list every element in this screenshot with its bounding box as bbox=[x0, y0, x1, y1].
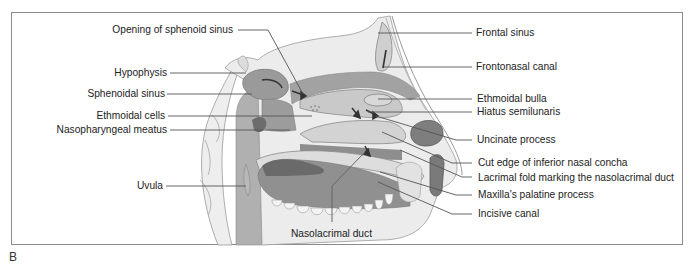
label-opening-sphenoid-sinus: Opening of sphenoid sinus bbox=[40, 24, 233, 36]
label-hypophysis: Hypophysis bbox=[40, 67, 167, 79]
label-frontal-sinus: Frontal sinus bbox=[476, 27, 534, 39]
label-sphenoidal-sinus: Sphenoidal sinus bbox=[40, 88, 165, 100]
label-frontonasal-canal: Frontonasal canal bbox=[476, 61, 557, 73]
maxilla-anterior bbox=[396, 162, 422, 202]
cervical-vertebrae bbox=[202, 70, 238, 245]
label-maxilla-palatine-process: Maxilla's palatine process bbox=[478, 189, 594, 201]
label-nasolacrimal-duct: Nasolacrimal duct bbox=[291, 228, 372, 240]
label-lacrimal-fold: Lacrimal fold marking the nasolacrimal d… bbox=[478, 172, 674, 184]
label-uvula: Uvula bbox=[40, 180, 163, 192]
label-nasopharyngeal-meatus: Nasopharyngeal meatus bbox=[20, 124, 167, 136]
label-ethmoidal-cells: Ethmoidal cells bbox=[40, 110, 165, 122]
label-cut-edge-inferior-nasal-concha: Cut edge of inferior nasal concha bbox=[478, 157, 628, 169]
nasal-vestibule bbox=[430, 155, 444, 196]
panel-label: B bbox=[9, 250, 17, 264]
cut-edge-concha-shape bbox=[411, 121, 443, 147]
label-uncinate-process: Uncinate process bbox=[477, 134, 556, 146]
ethmoidal-bulla-shape bbox=[364, 94, 392, 106]
label-incisive-canal: Incisive canal bbox=[478, 208, 539, 220]
label-ethmoidal-bulla: Ethmoidal bulla bbox=[477, 93, 547, 105]
label-hiatus-semilunaris: Hiatus semilunaris bbox=[477, 106, 560, 118]
